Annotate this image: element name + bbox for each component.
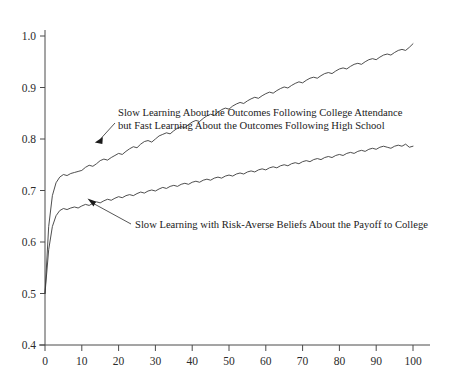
y-tick-label: 0.9 [22,82,37,94]
x-tick-label: 50 [223,355,235,367]
y-tick-label: 1.0 [22,30,37,42]
y-tick-label: 0.7 [22,185,37,197]
y-tick-label: 0.4 [22,339,37,351]
x-tick-label: 30 [150,355,162,367]
chart-figure: 0.40.50.60.70.80.91.0 010203040506070809… [0,0,450,385]
x-tick-label: 90 [370,355,382,367]
x-tick-label: 80 [334,355,346,367]
x-tick-label: 60 [260,355,272,367]
upper-annotation-line: but Fast Learning About the Outcomes Fol… [118,120,385,131]
y-tick-label: 0.6 [22,236,37,248]
x-tick-label: 40 [186,355,198,367]
x-tick-label: 100 [404,355,422,367]
x-tick-label: 0 [42,355,48,367]
y-tick-label: 0.5 [22,288,37,300]
lower-annotation-line: Slow Learning with Risk-Averse Beliefs A… [135,219,428,230]
x-tick-label: 20 [113,355,125,367]
x-tick-label: 10 [76,355,88,367]
chart-background [0,0,450,385]
y-tick-label: 0.8 [22,133,37,145]
upper-annotation-line: Slow Learning About the Outcomes Followi… [118,107,403,118]
x-tick-label: 70 [297,355,309,367]
line-chart: 0.40.50.60.70.80.91.0 010203040506070809… [0,0,450,385]
